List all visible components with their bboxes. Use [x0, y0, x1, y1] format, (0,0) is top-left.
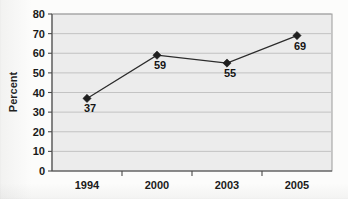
y-tick-label: 70	[33, 28, 45, 40]
y-tick-label: 50	[33, 67, 45, 79]
x-tick-label: 2003	[215, 179, 239, 191]
y-tick-label: 60	[33, 47, 45, 59]
x-axis-ticks: 1994200020032005	[75, 171, 309, 191]
data-point-label: 37	[84, 102, 96, 114]
y-tick-label: 40	[33, 87, 45, 99]
y-axis-ticks: 01020304050607080	[33, 8, 52, 177]
data-point-label: 69	[294, 40, 306, 52]
chart-canvas: 01020304050607080 1994200020032005 Perce…	[0, 0, 348, 199]
y-tick-label: 0	[39, 165, 45, 177]
data-point-label: 55	[224, 67, 236, 79]
y-tick-label: 20	[33, 126, 45, 138]
y-tick-label: 30	[33, 106, 45, 118]
y-tick-label: 10	[33, 145, 45, 157]
line-chart: 01020304050607080 1994200020032005 Perce…	[0, 0, 348, 199]
x-tick-label: 1994	[75, 179, 100, 191]
data-point-label: 59	[154, 59, 166, 71]
y-tick-label: 80	[33, 8, 45, 20]
x-tick-label: 2000	[145, 179, 169, 191]
x-tick-label: 2005	[285, 179, 309, 191]
y-axis-title: Percent	[7, 71, 19, 112]
